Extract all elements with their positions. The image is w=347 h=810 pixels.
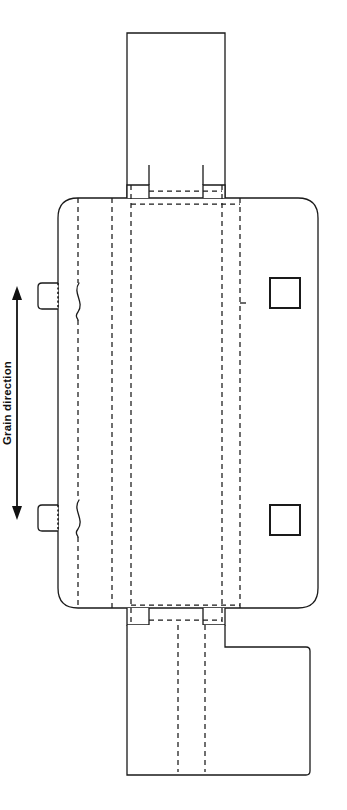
bottom-flap-outline [127,625,310,775]
side-tab-lower [38,505,58,531]
grain-direction-arrowhead-down [12,506,22,520]
side-tabs-group [38,283,58,531]
cutout-square-upper [270,278,300,308]
grain-direction-annotation: Grain direction [1,286,22,520]
side-tab-upper [38,283,58,309]
cutout-square-lower [270,505,300,535]
dieline-drawing: Grain direction [0,0,347,810]
bottom-flap-group [127,625,310,775]
grain-direction-arrowhead-up [12,286,22,300]
bottom-tab-left [127,608,149,625]
main-body-group [58,198,318,608]
dieline-canvas: Grain direction [0,0,347,810]
top-flap-outline [127,33,225,198]
grain-direction-label: Grain direction [1,361,13,445]
bottom-tabs-group [127,608,225,625]
top-flap-group [127,33,225,198]
main-body-outline [58,198,318,608]
top-tab-left [127,185,149,198]
